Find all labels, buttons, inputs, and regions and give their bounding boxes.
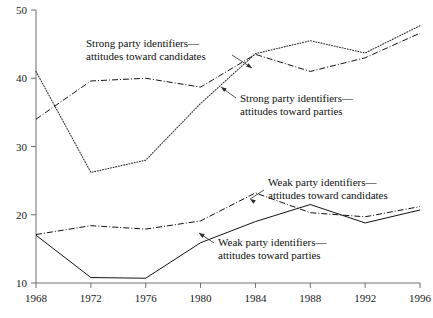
annotation-strong-candidates: Strong party identifiers—attitudes towar…: [86, 37, 252, 68]
annotation-weak-candidates: Weak party identifiers—attitudes toward …: [250, 176, 388, 204]
y-tick-label: 20: [16, 209, 28, 221]
x-tick-label: 1992: [354, 292, 376, 304]
annotation-strong-parties: Strong party identifiers—attitudes towar…: [221, 87, 354, 117]
y-tick-label: 30: [16, 141, 28, 153]
annotation-arrowhead: [199, 233, 205, 238]
y-tick-label: 50: [16, 4, 28, 16]
annotation-arrowhead: [250, 199, 256, 204]
annotation-line-2: attitudes toward candidates: [268, 189, 388, 201]
line-chart: 1020304050 19681972197619801984198819921…: [0, 0, 433, 318]
annotation-arrowhead: [246, 63, 252, 68]
y-tick-label: 10: [16, 277, 28, 289]
y-axis-tick-labels: 1020304050: [16, 4, 28, 289]
x-tick-label: 1988: [299, 292, 322, 304]
annotation-line-1: Strong party identifiers—: [240, 92, 354, 104]
x-tick-label: 1972: [80, 292, 102, 304]
y-tick-label: 40: [16, 72, 28, 84]
x-axis-tick-labels: 19681972197619801984198819921996: [25, 292, 432, 304]
annotation-line-1: Strong party identifiers—: [86, 37, 200, 49]
y-tick-marks: [31, 10, 36, 283]
annotation-line-1: Weak party identifiers—: [268, 176, 377, 188]
x-tick-label: 1984: [244, 292, 267, 304]
annotation-line-2: attitudes toward parties: [240, 105, 343, 117]
annotation-arrowhead: [221, 87, 227, 92]
annotation-weak-parties: Weak party identifiers—attitudes toward …: [199, 233, 327, 261]
annotation-line-2: attitudes toward parties: [218, 249, 321, 261]
chart-annotations: Strong party identifiers—attitudes towar…: [86, 37, 388, 261]
x-tick-label: 1980: [190, 292, 213, 304]
x-tick-marks: [36, 283, 420, 288]
annotation-line-1: Weak party identifiers—: [218, 236, 327, 248]
x-tick-label: 1968: [25, 292, 48, 304]
x-tick-label: 1976: [135, 292, 158, 304]
annotation-line-2: attitudes toward candidates: [86, 50, 206, 62]
x-tick-label: 1996: [409, 292, 432, 304]
chart-container: 1020304050 19681972197619801984198819921…: [0, 0, 433, 318]
